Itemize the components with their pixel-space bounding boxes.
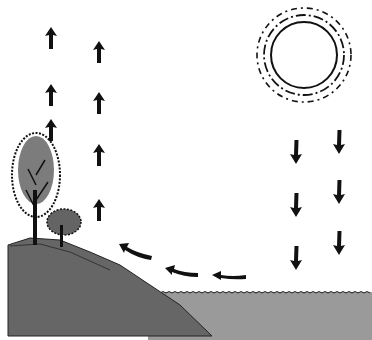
evaporation-arrows (119, 243, 246, 280)
water-cycle-diagram (0, 0, 372, 340)
transpiration-arrows (45, 27, 105, 221)
sun-icon (257, 8, 351, 102)
hill-land (8, 238, 212, 336)
radiation-arrows (290, 130, 345, 270)
